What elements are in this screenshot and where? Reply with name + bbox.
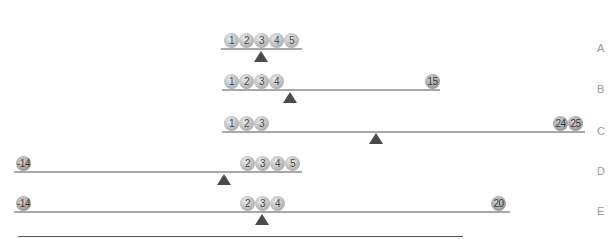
row-label: C	[597, 125, 605, 137]
fulcrum-triangle-icon	[254, 51, 268, 62]
ball: 1	[224, 116, 239, 131]
ball: 4	[269, 33, 284, 48]
ball: 3	[255, 196, 270, 211]
ball: 2	[239, 33, 254, 48]
ball: 4	[270, 156, 285, 171]
ball: 2	[240, 156, 255, 171]
ball: 3	[254, 33, 269, 48]
row-label: D	[597, 165, 605, 177]
beam	[222, 131, 585, 133]
ball: 15	[425, 74, 440, 89]
beam	[222, 89, 440, 91]
ball: 4	[269, 74, 284, 89]
beam	[14, 211, 510, 213]
ball: 3	[254, 116, 269, 131]
ball: -14	[16, 156, 31, 171]
ball: 2	[239, 116, 254, 131]
ball: 25	[568, 116, 583, 131]
ball: 1	[224, 33, 239, 48]
ball: 3	[254, 74, 269, 89]
beam	[221, 48, 302, 50]
beam	[14, 171, 302, 173]
ball: 3	[255, 156, 270, 171]
fulcrum-triangle-icon	[369, 133, 383, 144]
fulcrum-triangle-icon	[217, 174, 231, 185]
row-label: B	[597, 83, 604, 95]
ball: 5	[284, 33, 299, 48]
ball: 2	[240, 196, 255, 211]
ball: 5	[285, 156, 300, 171]
ball: 24	[553, 116, 568, 131]
ball: 2	[239, 74, 254, 89]
row-label: A	[597, 42, 604, 54]
ball: 1	[224, 74, 239, 89]
ball: 20	[491, 196, 506, 211]
ball: 4	[270, 196, 285, 211]
ball: -14	[16, 196, 31, 211]
bottom-rule	[18, 236, 463, 237]
row-label: E	[597, 205, 604, 217]
fulcrum-triangle-icon	[283, 92, 297, 103]
fulcrum-triangle-icon	[255, 214, 269, 225]
